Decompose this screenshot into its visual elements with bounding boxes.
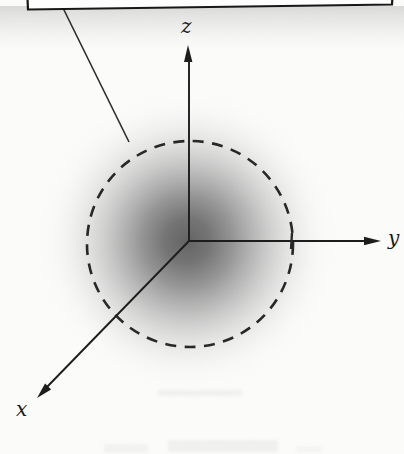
x-axis-label: x — [16, 399, 27, 419]
figure-canvas: z y x — [0, 0, 404, 454]
figure-svg — [0, 0, 404, 454]
y-axis-label: y — [388, 228, 399, 248]
z-axis-label: z — [181, 16, 192, 36]
scan-noise-overlay — [0, 0, 404, 454]
